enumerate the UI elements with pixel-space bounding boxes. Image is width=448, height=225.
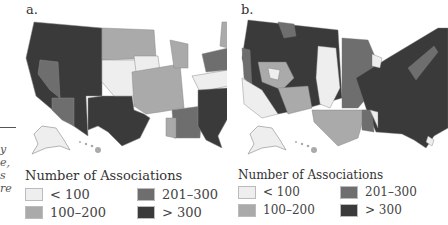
legend-swatch xyxy=(238,186,256,199)
region-midwest xyxy=(132,64,184,114)
side-caption-fragment: e, xyxy=(0,156,10,169)
side-caption-fragment: re xyxy=(0,182,12,195)
legend-item-gt300-a: > 300 xyxy=(137,205,202,220)
legend-swatch xyxy=(340,186,358,199)
side-caption-fragment: s xyxy=(0,169,6,182)
legend-item-lt100-a: < 100 xyxy=(25,187,90,202)
panel-b-label: b. xyxy=(241,2,253,17)
legend-swatch xyxy=(238,204,256,217)
legend-label: 100–200 xyxy=(50,205,106,220)
region-tn-al xyxy=(172,106,202,138)
region-mi xyxy=(170,40,188,68)
legend-label: < 100 xyxy=(263,185,300,199)
legend-item-201-300-a: 201–300 xyxy=(137,187,218,202)
panel-a-label: a. xyxy=(26,2,38,17)
legend-label: > 300 xyxy=(162,205,202,220)
legend-label: < 100 xyxy=(50,187,90,202)
alaska-hawaii-b xyxy=(240,124,320,156)
legend-item-lt100-b: < 100 xyxy=(238,185,300,199)
side-divider xyxy=(0,127,16,128)
side-caption-fragment: y xyxy=(0,143,6,156)
legend-item-gt300-b: > 300 xyxy=(340,203,402,217)
region-new-england xyxy=(220,22,227,48)
legend-item-100-200-a: 100–200 xyxy=(25,205,106,220)
legend-swatch xyxy=(25,206,43,219)
legend-swatch xyxy=(25,188,43,201)
legend-title-a: Number of Associations xyxy=(25,168,182,183)
legend-title-b: Number of Associations xyxy=(238,168,383,182)
legend-swatch xyxy=(137,206,155,219)
legend-label: 201–300 xyxy=(162,187,218,202)
legend-label: > 300 xyxy=(365,203,402,217)
alaska-hawaii-a xyxy=(24,124,104,156)
region-az xyxy=(52,98,74,126)
legend-item-201-300-b: 201–300 xyxy=(340,185,417,199)
region-southeast xyxy=(198,88,227,148)
legend-swatch xyxy=(340,204,358,217)
legend-item-100-200-b: 100–200 xyxy=(238,203,315,217)
legend-swatch xyxy=(137,188,155,201)
legend-label: 100–200 xyxy=(263,203,315,217)
legend-label: 201–300 xyxy=(365,185,417,199)
region-dakotas-mn xyxy=(102,28,156,60)
region-ny xyxy=(202,48,227,72)
region-ms xyxy=(166,118,176,138)
